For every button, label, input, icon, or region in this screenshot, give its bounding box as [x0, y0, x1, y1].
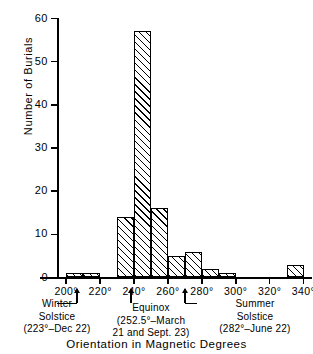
histogram-chart: Number of Burials 0102030405060 200°220°… [0, 0, 313, 354]
equinox-arrow [130, 289, 131, 303]
histogram-bar [168, 256, 185, 278]
histogram-bar [202, 269, 219, 278]
summer-solstice-arrow [184, 289, 185, 303]
summer-solstice-line2: Solstice [196, 311, 313, 324]
histogram-bar [151, 208, 168, 277]
histogram-bar [185, 252, 202, 278]
histogram-bar [219, 273, 236, 277]
summer-solstice-line1: Summer [196, 298, 313, 311]
histogram-bar [134, 31, 151, 277]
histogram-bar [117, 217, 134, 277]
summer-solstice-line3: (282°–June 22) [196, 323, 313, 336]
equinox-line2: (252.5°–March [96, 315, 206, 328]
equinox-annotation: Equinox (252.5°–March 21 and Sept. 23) [96, 302, 206, 340]
summer-solstice-annotation: Summer Solstice (282°–June 22) [196, 298, 313, 336]
histogram-bar [83, 273, 100, 277]
histogram-bar [66, 273, 83, 277]
x-axis-title: Orientation in Magnetic Degrees [0, 338, 313, 350]
histogram-bar [287, 265, 304, 278]
